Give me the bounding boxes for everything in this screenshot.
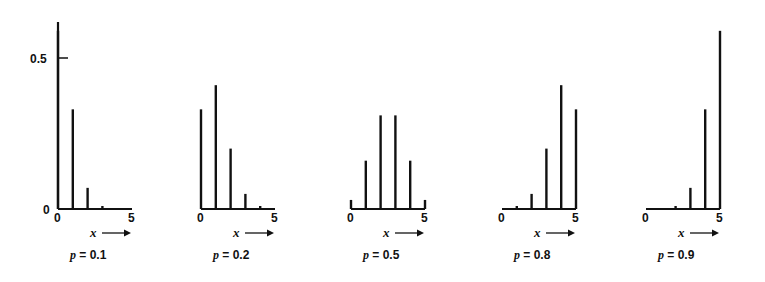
x-axis-label: x (382, 225, 390, 240)
arrow-head-icon (712, 230, 719, 237)
panel-parameter-label: p = 0.2 (212, 248, 250, 262)
panel-parameter-label: p = 0.9 (657, 248, 695, 262)
x-axis-label: x (533, 225, 541, 240)
binomial-pmf-figure: 0.5 0 05xp = 0.105xp = 0.205xp = 0.505xp… (0, 0, 765, 282)
panel-p-0.1: 05xp = 0.1 (54, 22, 135, 262)
panel-parameter-label: p = 0.5 (362, 248, 400, 262)
arrow-head-icon (267, 230, 274, 237)
x-tick-label-0: 0 (54, 211, 61, 225)
x-tick-label-0: 0 (642, 211, 649, 225)
arrow-head-icon (417, 230, 424, 237)
panel-p-0.2: 05xp = 0.2 (197, 85, 278, 262)
x-axis-label: x (232, 225, 240, 240)
panel-p-0.8: 05xp = 0.8 (498, 85, 579, 262)
panel-p-0.5: 05xp = 0.5 (347, 115, 428, 262)
x-axis-label: x (89, 225, 97, 240)
x-tick-label-5: 5 (572, 211, 579, 225)
x-tick-label-0: 0 (498, 211, 505, 225)
x-tick-label-0: 0 (347, 211, 354, 225)
x-tick-label-5: 5 (716, 211, 723, 225)
panel-parameter-label: p = 0.1 (69, 248, 107, 262)
x-tick-label-5: 5 (421, 211, 428, 225)
arrow-head-icon (124, 230, 131, 237)
panel-parameter-label: p = 0.8 (513, 248, 551, 262)
panel-p-0.9: 05xp = 0.9 (642, 31, 723, 262)
x-tick-label-5: 5 (128, 211, 135, 225)
y-tick-label-0: 0 (43, 203, 50, 217)
x-tick-label-5: 5 (271, 211, 278, 225)
y-tick-label-0.5: 0.5 (30, 52, 47, 66)
x-axis-label: x (677, 225, 685, 240)
x-tick-label-0: 0 (197, 211, 204, 225)
arrow-head-icon (568, 230, 575, 237)
